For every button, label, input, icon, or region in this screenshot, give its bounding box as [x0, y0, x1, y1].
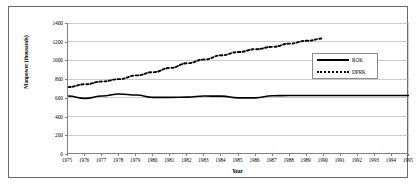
plot-area: [67, 23, 408, 154]
y-tick-label: 0: [19, 151, 63, 157]
x-axis-title: Year: [67, 168, 408, 174]
x-tick-label: 1984: [208, 157, 232, 163]
x-tick-mark: [186, 154, 187, 156]
x-tick-label: 1982: [174, 157, 198, 163]
y-tick-label: 200: [19, 132, 63, 138]
x-tick-mark: [391, 154, 392, 156]
x-tick-mark: [323, 154, 324, 156]
x-tick-label: 1979: [123, 157, 147, 163]
legend-swatch-dotted-line: [317, 71, 349, 73]
y-tick-mark: [65, 154, 67, 155]
x-tick-mark: [374, 154, 375, 156]
x-tick-mark: [101, 154, 102, 156]
series-line-dprk: [68, 38, 324, 87]
x-tick-label: 1988: [277, 157, 301, 163]
x-tick-mark: [135, 154, 136, 156]
x-tick-label: 1990: [311, 157, 335, 163]
x-tick-label: 1980: [140, 157, 164, 163]
x-tick-mark: [84, 154, 85, 156]
x-tick-mark: [169, 154, 170, 156]
x-tick-mark: [408, 154, 409, 156]
legend-item-dprk: DPRK: [313, 67, 379, 78]
figure-frame: 0200400600800100012001400 19751976197719…: [8, 6, 408, 178]
x-tick-mark: [340, 154, 341, 156]
x-tick-label: 1992: [345, 157, 369, 163]
x-tick-mark: [152, 154, 153, 156]
x-tick-label: 1976: [72, 157, 96, 163]
x-tick-mark: [289, 154, 290, 156]
legend-item-rok: ROK: [313, 55, 379, 66]
x-tick-label: 1975: [55, 157, 79, 163]
x-tick-label: 1994: [379, 157, 403, 163]
x-tick-mark: [357, 154, 358, 156]
x-tick-label: 1983: [191, 157, 215, 163]
x-tick-mark: [272, 154, 273, 156]
x-tick-label: 1985: [226, 157, 250, 163]
x-tick-label: 1986: [243, 157, 267, 163]
y-axis-title: Manpower (thousands): [23, 14, 29, 110]
x-tick-label: 1987: [260, 157, 284, 163]
legend-label-rok: ROK: [352, 57, 363, 64]
legend-swatch-solid-line: [317, 59, 349, 63]
x-tick-mark: [203, 154, 204, 156]
legend-label-dprk: DPRK: [352, 69, 366, 76]
x-tick-mark: [67, 154, 68, 156]
x-tick-label: 1991: [328, 157, 352, 163]
x-tick-label: 1989: [294, 157, 318, 163]
plot-canvas: [68, 23, 409, 154]
x-tick-mark: [238, 154, 239, 156]
gridlines: [68, 23, 409, 154]
x-tick-label: 1978: [106, 157, 130, 163]
x-tick-mark: [220, 154, 221, 156]
x-tick-mark: [306, 154, 307, 156]
x-tick-label: 1981: [157, 157, 181, 163]
x-tick-mark: [118, 154, 119, 156]
x-tick-mark: [255, 154, 256, 156]
chart-figure: 0200400600800100012001400 19751976197719…: [0, 0, 419, 187]
x-tick-label: 1995: [396, 157, 419, 163]
x-tick-label: 1993: [362, 157, 386, 163]
chart-legend: ROK DPRK: [312, 53, 378, 79]
y-tick-label: 400: [19, 114, 63, 120]
x-tick-label: 1977: [89, 157, 113, 163]
